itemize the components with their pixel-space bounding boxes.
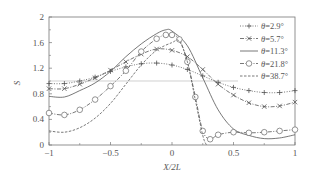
x-tick-label: 1 xyxy=(293,148,298,158)
y-tick-label: 0.4 xyxy=(33,114,45,124)
legend-item: θ=2.9° xyxy=(261,21,284,31)
x-tick-label: −1 xyxy=(44,148,54,158)
series-4 xyxy=(49,40,206,145)
legend-item: θ=5.7° xyxy=(261,34,284,44)
y-axis-label: S xyxy=(12,80,22,85)
x-tick-label: 0 xyxy=(170,148,175,158)
y-tick-label: 0 xyxy=(40,140,45,150)
legend-item: θ=21.8° xyxy=(261,59,288,69)
y-tick-label: 0.8 xyxy=(33,89,45,99)
x-tick-label: −0.5 xyxy=(102,148,119,158)
y-tick-label: 1.2 xyxy=(33,63,44,73)
y-tick-label: 1.6 xyxy=(33,38,45,48)
legend-item: θ=38.7° xyxy=(261,71,288,81)
legend: θ=2.9°θ=5.7°θ=11.3°θ=21.8°θ=38.7° xyxy=(238,19,294,85)
line-chart: −1−0.500.5100.40.81.21.62 θ=2.9°θ=5.7°θ=… xyxy=(0,0,313,186)
y-tick-label: 2 xyxy=(40,12,45,22)
x-axis-label: X/2L xyxy=(162,162,181,172)
legend-item: θ=11.3° xyxy=(261,46,288,56)
x-tick-label: 0.5 xyxy=(228,148,240,158)
